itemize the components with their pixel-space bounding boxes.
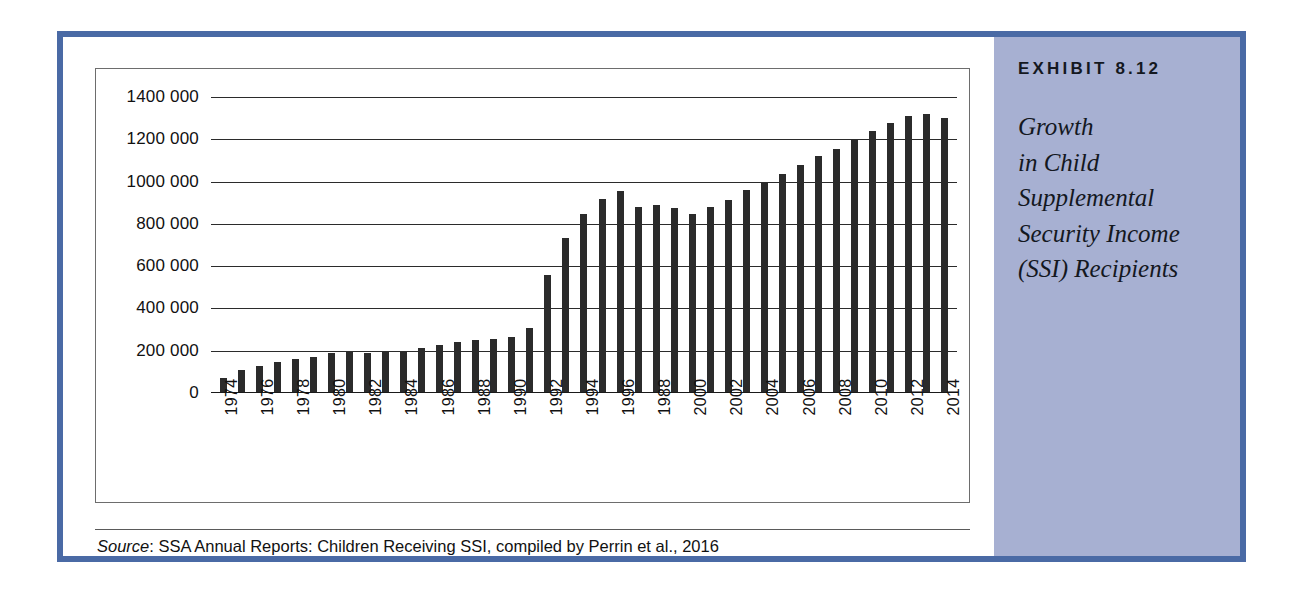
bar-slot [665,97,683,393]
y-axis-tick-label: 0 [189,383,199,403]
bar-slot [629,97,647,393]
x-tick-slot [918,393,936,489]
x-tick-slot [521,393,539,489]
y-axis-tick-label: 1000 000 [126,172,199,192]
x-tick-slot [413,393,431,489]
bar[interactable] [671,208,678,393]
bar[interactable] [869,131,876,393]
bar-slot [719,97,737,393]
bar[interactable] [599,199,606,393]
bar[interactable] [689,214,696,393]
y-axis-tick-label: 1200 000 [126,129,199,149]
y-axis-tick-label: 400 000 [136,298,199,318]
x-tick-slot: 2014 [936,393,954,489]
x-tick-slot: 1994 [575,393,593,489]
x-tick-slot: 2006 [792,393,810,489]
exhibit-sidebar: EXHIBIT 8.12 Growthin ChildSupplementalS… [994,37,1240,556]
x-tick-slot: 1978 [286,393,304,489]
bar[interactable] [707,207,714,393]
bar[interactable] [580,214,587,393]
x-tick-slot [810,393,828,489]
exhibit-title-line: in Child [1018,145,1240,181]
x-tick-slot [846,393,864,489]
exhibit-title-line: (SSI) Recipients [1018,251,1240,287]
x-tick-slot [882,393,900,489]
bar-slot [701,97,719,393]
bar-series [211,97,957,393]
x-tick-slot [449,393,467,489]
x-tick-slot: 1980 [322,393,340,489]
x-tick-slot [737,393,755,489]
x-tick-slot [593,393,611,489]
bar[interactable] [544,275,551,393]
bar-slot [683,97,701,393]
bar[interactable] [833,149,840,393]
bar[interactable] [941,118,948,393]
bar-slot [918,97,936,393]
x-tick-slot: 1974 [214,393,232,489]
y-axis-tick-label: 200 000 [136,341,199,361]
bar-slot [485,97,503,393]
bar-slot [647,97,665,393]
bar[interactable] [653,205,660,393]
bar-slot [394,97,412,393]
exhibit-figure: 1400 0001200 0001000 000800 000600 00040… [57,31,1246,562]
x-tick-slot [557,393,575,489]
chart-pane: 1400 0001200 0001000 000800 000600 00040… [63,37,994,556]
x-tick-slot [485,393,503,489]
bar-slot [413,97,431,393]
bar[interactable] [779,174,786,393]
x-tick-slot [376,393,394,489]
bar-slot [611,97,629,393]
x-tick-slot: 2008 [828,393,846,489]
exhibit-title-line: Growth [1018,109,1240,145]
exhibit-number: EXHIBIT 8.12 [1018,59,1240,79]
x-tick-slot: 2012 [900,393,918,489]
bar[interactable] [743,190,750,393]
x-axis-tick-label: 2014 [945,379,963,416]
bar[interactable] [887,123,894,393]
bar-slot [322,97,340,393]
bar-slot [539,97,557,393]
source-text: : SSA Annual Reports: Children Receiving… [149,537,719,555]
bar-slot [575,97,593,393]
x-tick-slot: 2004 [755,393,773,489]
bar[interactable] [761,182,768,393]
plot-area: 1400 0001200 0001000 000800 000600 00040… [211,97,957,393]
bar-slot [882,97,900,393]
bar[interactable] [797,165,804,393]
exhibit-title-line: Supplemental [1018,180,1240,216]
bar[interactable] [635,207,642,393]
x-tick-slot: 1988 [647,393,665,489]
bar[interactable] [562,238,569,393]
x-tick-slot: 1996 [611,393,629,489]
bar[interactable] [815,156,822,393]
x-tick-slot [773,393,791,489]
bar-slot [358,97,376,393]
bar-slot [304,97,322,393]
x-tick-slot: 1992 [539,393,557,489]
x-tick-slot: 2000 [683,393,701,489]
x-tick-slot: 2010 [864,393,882,489]
x-axis-tick-labels: 1974197619781980198219841986198819901992… [211,393,957,489]
bar[interactable] [851,140,858,394]
bar-slot [936,97,954,393]
bar[interactable] [923,114,930,394]
bar[interactable] [725,200,732,393]
x-tick-slot: 1984 [394,393,412,489]
x-tick-slot [304,393,322,489]
x-tick-slot [665,393,683,489]
x-tick-slot: 1976 [250,393,268,489]
bar-slot [557,97,575,393]
exhibit-title: Growthin ChildSupplementalSecurity Incom… [1018,109,1240,287]
bar[interactable] [617,191,624,393]
bar-slot [810,97,828,393]
x-tick-slot: 1988 [467,393,485,489]
bar-slot [250,97,268,393]
bar[interactable] [905,116,912,393]
bar-slot [792,97,810,393]
bar-slot [755,97,773,393]
x-tick-slot: 1982 [358,393,376,489]
bar-slot [521,97,539,393]
bar-slot [864,97,882,393]
